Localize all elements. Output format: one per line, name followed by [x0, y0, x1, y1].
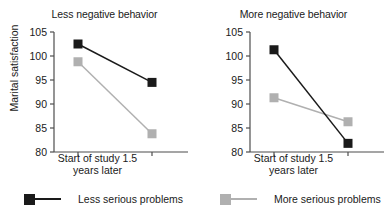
y-axis-tick-label: 105 — [29, 26, 47, 38]
legend-entry-less-serious-problems: Less serious problems — [24, 188, 183, 210]
legend-label: More serious problems — [274, 193, 381, 205]
chart-panel-more-negative-behavior: More negative behavior 80859095100105 St… — [196, 0, 391, 185]
x-axis-tick-labels-left: Start of study 1.5 years later — [0, 152, 195, 176]
y-axis-tick-label: 95 — [231, 74, 243, 86]
data-point-marker — [148, 78, 157, 87]
x-axis-label-line2: years later — [0, 164, 195, 176]
figure-root: Less negative behavior Marital satisfact… — [0, 0, 391, 213]
y-axis-tick-label: 90 — [231, 98, 243, 110]
y-axis-tick-label: 85 — [35, 122, 47, 134]
y-axis-tick-label: 95 — [35, 74, 47, 86]
data-point-marker — [270, 93, 279, 102]
y-axis-tick-label: 90 — [35, 98, 47, 110]
x-axis-label-line2: years later — [196, 164, 391, 176]
legend-swatch-gray-square-icon — [220, 194, 231, 205]
legend-swatch-black-square-icon — [24, 194, 35, 205]
data-point-marker — [148, 129, 157, 138]
legend-label: Less serious problems — [78, 193, 183, 205]
y-axis-tick-label: 105 — [225, 26, 243, 38]
y-axis-tick-label: 100 — [225, 50, 243, 62]
legend-line-gray — [231, 198, 257, 200]
legend-line-black — [35, 198, 61, 200]
chart-panel-less-negative-behavior: Less negative behavior Marital satisfact… — [0, 0, 195, 185]
y-axis-tick-label: 85 — [231, 122, 243, 134]
data-point-marker — [270, 45, 279, 54]
data-point-marker — [74, 57, 83, 66]
legend-entry-more-serious-problems: More serious problems — [220, 188, 381, 210]
x-axis-label-line1: Start of study 1.5 — [0, 152, 195, 164]
data-point-marker — [344, 117, 353, 126]
data-point-marker — [74, 40, 83, 49]
x-axis-label-line1: Start of study 1.5 — [196, 152, 391, 164]
data-point-marker — [344, 139, 353, 148]
x-axis-tick-labels-right: Start of study 1.5 years later — [196, 152, 391, 176]
y-axis-tick-label: 100 — [29, 50, 47, 62]
